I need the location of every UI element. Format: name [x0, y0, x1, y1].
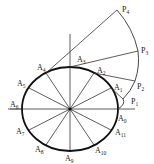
spoke-a8: [46, 109, 70, 145]
label-a10: A10: [95, 146, 107, 156]
label-a0: A0: [118, 114, 127, 124]
spoke-a7: [29, 109, 70, 130]
label-p4: P4: [122, 5, 129, 15]
label-p3: P3: [141, 46, 148, 56]
label-a9: A9: [65, 154, 74, 164]
label-a2: A2: [97, 66, 106, 76]
label-a1: A1: [114, 83, 123, 93]
spoke-a1: [70, 88, 111, 109]
spoke-a10: [70, 109, 94, 145]
spoke-a4: [46, 73, 70, 109]
spoke-a11: [70, 109, 111, 130]
spoke-a5: [29, 88, 70, 109]
label-a4: A4: [37, 63, 46, 73]
ellipse-involute-diagram: A0A1A2A3A4A5A6A7A8A9A10A11P1P2P3P4: [0, 0, 154, 164]
label-a6: A6: [10, 100, 19, 110]
center-point: [68, 107, 71, 110]
spoke-a2: [70, 73, 94, 109]
label-p2: P2: [137, 82, 144, 92]
label-a5: A5: [17, 79, 26, 89]
label-a11: A11: [115, 128, 126, 138]
label-a7: A7: [16, 127, 25, 137]
label-p1: P1: [131, 97, 138, 107]
involute-curve: [117, 10, 139, 109]
label-a8: A8: [35, 145, 44, 155]
tangent-lines: [46, 10, 138, 99]
label-a3: A3: [77, 55, 86, 65]
